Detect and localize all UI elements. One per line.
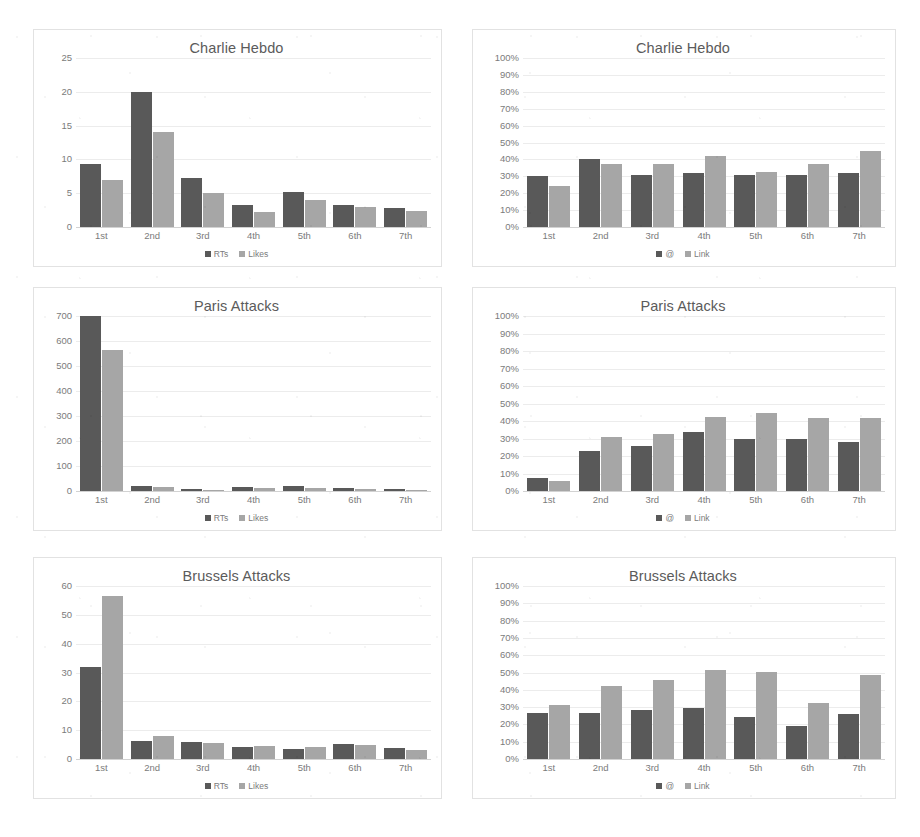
bar [384,489,405,491]
bar [181,489,202,491]
y-tick-label: 0% [505,754,519,764]
bar [131,486,152,491]
y-tick-label: 20 [61,697,72,707]
y-tick-label: 300 [56,411,72,421]
y-tick-label: 50 [61,610,72,620]
bar-group [782,316,834,491]
y-tick-label: 30 [61,668,72,678]
legend-item: Likes [239,250,268,259]
x-tick-label: 4th [678,231,730,241]
bar [355,745,376,759]
plot-area-wrap: 0100200300400500600700 [42,316,431,491]
plot-area [523,316,885,491]
x-tick-label: 4th [678,495,730,505]
y-tick-label: 90% [500,70,519,80]
y-tick-label: 40 [61,639,72,649]
bar [232,205,253,227]
legend-swatch-icon [656,783,662,789]
x-tick-label: 2nd [127,763,178,773]
y-tick-label: 10 [61,155,72,165]
legend: RTsLikes [42,505,431,527]
bar [102,350,123,491]
bar [153,736,174,759]
bar [333,205,354,227]
bar [601,164,622,227]
x-tick-label: 7th [833,495,885,505]
y-tick-label: 70% [500,364,519,374]
plot-area [76,58,431,227]
legend-item: Link [685,250,710,259]
x-tick-label: 4th [228,495,279,505]
plot-area-wrap: 0102030405060 [42,586,431,759]
bar-group [330,316,381,491]
bar-group [127,58,178,227]
y-tick-label: 15 [61,121,72,131]
bar [181,178,202,227]
bar [756,672,777,759]
bar [653,164,674,227]
x-tick-label: 2nd [575,495,627,505]
chart-grid: Charlie Hebdo 0510152025 1st2nd3rd4th5th… [0,0,920,837]
x-tick-label: 4th [678,763,730,773]
bar-group [575,58,627,227]
chart-title: Brussels Attacks [481,568,885,584]
y-tick-label: 80% [500,616,519,626]
x-tick-label: 2nd [127,495,178,505]
y-tick-label: 20% [500,720,519,730]
bar [384,748,405,759]
x-tick-label: 5th [730,495,782,505]
legend-swatch-icon [239,251,245,257]
y-tick-label: 10% [500,205,519,215]
y-axis: 0102030405060 [42,586,76,759]
bar-group [730,586,782,759]
chart-frame: Charlie Hebdo 0510152025 1st2nd3rd4th5th… [33,29,442,267]
chart-frame: Brussels Attacks 0%10%20%30%40%50%60%70%… [472,557,896,799]
axis-baseline [523,491,885,492]
legend-swatch-icon [685,251,691,257]
chart-panel-paris-attacks-engagement: Paris Attacks 0100200300400500600700 1st… [0,279,463,541]
bar [756,172,777,227]
y-tick-label: 40% [500,685,519,695]
bar [579,713,600,759]
chart-frame: Charlie Hebdo 0%10%20%30%40%50%60%70%80%… [472,29,896,267]
bar-group [127,586,178,759]
y-axis: 0%10%20%30%40%50%60%70%80%90%100% [481,586,523,759]
bar [631,175,652,227]
legend-item: @ [656,250,674,259]
y-tick-label: 20% [500,188,519,198]
bar-group [279,586,330,759]
bar [601,686,622,759]
bar [203,193,224,227]
bar [80,164,101,227]
bar-group [678,58,730,227]
bar-group [626,58,678,227]
chart-title: Paris Attacks [42,298,431,314]
x-tick-label: 1st [523,231,575,241]
bar [232,747,253,759]
bar-group [782,58,834,227]
y-axis: 0100200300400500600700 [42,316,76,491]
bar [527,176,548,227]
x-tick-label: 6th [330,495,381,505]
y-tick-label: 200 [56,436,72,446]
bar [102,596,123,759]
legend-swatch-icon [205,783,211,789]
x-axis: 1st2nd3rd4th5th6th7th [523,491,885,505]
bar [527,478,548,491]
axis-baseline [76,227,431,228]
chart-panel-charlie-hebdo-features: Charlie Hebdo 0%10%20%30%40%50%60%70%80%… [463,0,920,279]
y-tick-label: 60 [61,581,72,591]
bar [232,487,253,491]
legend-item: Link [685,782,710,791]
bar-group [177,316,228,491]
legend-swatch-icon [205,515,211,521]
y-tick-label: 50% [500,399,519,409]
bar-group [177,58,228,227]
bar [384,208,405,227]
x-tick-label: 4th [228,763,279,773]
legend-item: Likes [239,782,268,791]
bar-group [523,58,575,227]
bar-group [380,58,431,227]
bar [305,488,326,491]
x-tick-label: 2nd [127,231,178,241]
